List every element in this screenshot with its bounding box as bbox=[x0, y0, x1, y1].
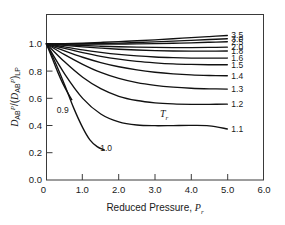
figure-container: 1.0 0.8 0.6 0.4 0.2 0.0 0 1.0 2.0 3.0 4.… bbox=[0, 0, 285, 225]
curve-tr-1-1 bbox=[47, 44, 228, 129]
x-axis-title-main: Reduced Pressure, bbox=[106, 202, 194, 213]
y-tick-label: 0.8 bbox=[29, 66, 42, 77]
curve-label-1-0: 1.0 bbox=[100, 143, 112, 153]
curve-end-labels: 3.53.02.52.01.81.61.51.41.31.21.1 bbox=[231, 30, 243, 134]
curves-group bbox=[47, 35, 228, 150]
y-axis-ticks bbox=[47, 44, 53, 153]
y-axis-title-lp: LP bbox=[14, 67, 21, 76]
curve-end-label-1-2: 1.2 bbox=[231, 99, 243, 109]
curve-end-label-1-3: 1.3 bbox=[231, 84, 243, 94]
x-axis-title-sub: r bbox=[201, 208, 204, 216]
x-tick-label: 2.0 bbox=[112, 184, 125, 195]
x-axis-ticks bbox=[82, 174, 227, 180]
curve-label-0-9: 0.9 bbox=[57, 105, 69, 115]
y-tick-labels: 1.0 0.8 0.6 0.4 0.2 0.0 bbox=[29, 38, 42, 185]
x-axis-title: Reduced Pressure, Pr bbox=[106, 202, 204, 216]
x-tick-label: 4.0 bbox=[185, 184, 198, 195]
x-tick-label: 6.0 bbox=[257, 184, 270, 195]
y-tick-label: 1.0 bbox=[29, 38, 42, 49]
x-tick-label: 3.0 bbox=[148, 184, 161, 195]
diffusivity-pressure-chart: 1.0 0.8 0.6 0.4 0.2 0.0 0 1.0 2.0 3.0 4.… bbox=[0, 0, 285, 225]
x-tick-label: 0 bbox=[41, 184, 46, 195]
curve-end-label-1-5: 1.5 bbox=[231, 60, 243, 70]
x-axis-title-var: P bbox=[194, 202, 201, 213]
y-axis-title: DABP/(DABP)LP bbox=[9, 67, 21, 128]
curve-end-label-1-1: 1.1 bbox=[231, 124, 243, 134]
y-tick-label: 0.4 bbox=[29, 120, 42, 131]
x-tick-label: 5.0 bbox=[221, 184, 234, 195]
y-tick-label: 0.6 bbox=[29, 93, 42, 104]
y-tick-label: 0.2 bbox=[29, 147, 42, 158]
tr-legend-label: Tr bbox=[160, 108, 169, 122]
chart-annotations: Tr0.91.0 bbox=[57, 105, 169, 152]
x-tick-label: 1.0 bbox=[76, 184, 89, 195]
y-axis-title-ab2: AB bbox=[14, 83, 21, 93]
curve-end-label-1-4: 1.4 bbox=[231, 71, 243, 81]
y-axis-title-ab: AB bbox=[14, 110, 21, 120]
curve-tr-1-2 bbox=[47, 44, 228, 104]
x-tick-labels: 0 1.0 2.0 3.0 4.0 5.0 6.0 bbox=[41, 184, 271, 195]
